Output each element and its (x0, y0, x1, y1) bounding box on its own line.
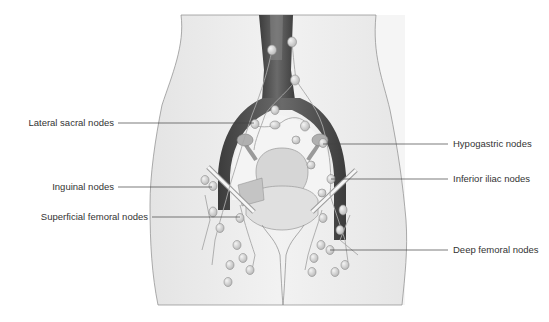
label-inguinal-nodes: Inguinal nodes (52, 181, 114, 192)
label-inferior-iliac-nodes: Inferior iliac nodes (453, 173, 530, 184)
anatomy-illustration (0, 0, 549, 322)
label-hypogastric-nodes: Hypogastric nodes (453, 138, 532, 149)
label-deep-femoral-nodes: Deep femoral nodes (453, 244, 539, 255)
pelvic-lymph-nodes-diagram: Lateral sacral nodes Inguinal nodes Supe… (0, 0, 549, 322)
label-superficial-femoral-nodes: Superficial femoral nodes (41, 211, 148, 222)
label-lateral-sacral-nodes: Lateral sacral nodes (28, 117, 114, 128)
